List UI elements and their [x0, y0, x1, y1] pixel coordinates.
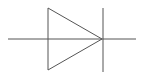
- diode-diagram: [0, 0, 144, 81]
- diode-symbol-icon: [0, 0, 144, 81]
